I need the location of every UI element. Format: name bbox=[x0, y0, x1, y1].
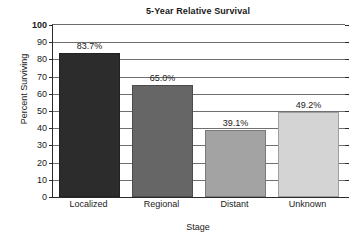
plot-inner: 100908070605040302010083.7%65.0%39.1%49.… bbox=[53, 25, 345, 197]
y-axis-tick-right bbox=[345, 145, 349, 146]
x-axis-title: Stage bbox=[52, 222, 344, 232]
y-axis-tick-right bbox=[345, 59, 349, 60]
y-axis-tick-right bbox=[345, 128, 349, 129]
y-axis-tick-label: 90 bbox=[37, 37, 47, 47]
bar-unknown[interactable] bbox=[278, 112, 339, 197]
y-axis-tick-right bbox=[345, 42, 349, 43]
x-axis-label-unknown: Unknown bbox=[271, 199, 344, 209]
bar-slot: 65.0% bbox=[126, 25, 199, 197]
bar-slot: 39.1% bbox=[199, 25, 272, 197]
y-axis-tick-label: 30 bbox=[37, 140, 47, 150]
y-axis-tick-label: 80 bbox=[37, 54, 47, 64]
bar-value-label: 49.2% bbox=[272, 100, 345, 110]
y-axis-tick bbox=[49, 197, 53, 198]
y-axis-tick-right bbox=[345, 197, 349, 198]
bar-chart-figure: 5-Year Relative Survival Percent Survivi… bbox=[0, 0, 356, 245]
bar-slot: 49.2% bbox=[272, 25, 345, 197]
plot-area: 100908070605040302010083.7%65.0%39.1%49.… bbox=[52, 24, 345, 197]
y-axis-tick-label: 10 bbox=[37, 175, 47, 185]
y-axis-tick-label: 50 bbox=[37, 106, 47, 116]
y-axis-tick-label: 70 bbox=[37, 72, 47, 82]
bar-localized[interactable] bbox=[59, 53, 120, 197]
y-axis-tick-right bbox=[345, 25, 349, 26]
y-axis-tick-label: 100 bbox=[32, 20, 47, 30]
y-axis-tick-right bbox=[345, 111, 349, 112]
y-axis-title: Percent Surviving bbox=[19, 19, 29, 159]
y-axis-tick-label: 0 bbox=[42, 192, 47, 202]
bar-regional[interactable] bbox=[132, 85, 193, 197]
bar-value-label: 83.7% bbox=[53, 41, 126, 51]
x-axis-label-regional: Regional bbox=[125, 199, 198, 209]
bar-distant[interactable] bbox=[205, 130, 266, 197]
y-axis-tick-label: 20 bbox=[37, 158, 47, 168]
bar-value-label: 39.1% bbox=[199, 118, 272, 128]
y-axis-tick-right bbox=[345, 180, 349, 181]
y-axis-tick-label: 40 bbox=[37, 123, 47, 133]
bar-value-label: 65.0% bbox=[126, 73, 199, 83]
chart-title: 5-Year Relative Survival bbox=[52, 6, 344, 16]
x-axis-category-labels: LocalizedRegionalDistantUnknown bbox=[52, 199, 344, 215]
y-axis-tick-right bbox=[345, 94, 349, 95]
x-axis-label-distant: Distant bbox=[198, 199, 271, 209]
y-axis-tick-label: 60 bbox=[37, 89, 47, 99]
y-axis-tick-right bbox=[345, 163, 349, 164]
bar-slot: 83.7% bbox=[53, 25, 126, 197]
y-axis-tick-right bbox=[345, 77, 349, 78]
x-axis-label-localized: Localized bbox=[52, 199, 125, 209]
